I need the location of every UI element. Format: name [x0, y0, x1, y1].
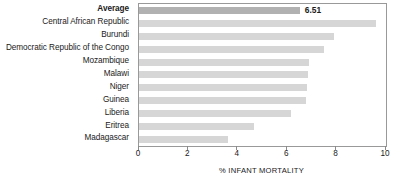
- category-label-eritrea: Eritrea: [0, 119, 134, 132]
- plot-area: 6.51: [138, 3, 387, 147]
- bar-eritrea: [139, 123, 254, 130]
- x-tick-label: 2: [185, 150, 190, 158]
- bar-value-label: 6.51: [305, 6, 321, 14]
- bar-row: [139, 133, 386, 146]
- bar-row: 6.51: [139, 4, 386, 17]
- bars-layer: 6.51: [139, 4, 386, 146]
- bar-row: [139, 69, 386, 82]
- bar-row: [139, 120, 386, 133]
- category-label-mozambique: Mozambique: [0, 55, 134, 68]
- bar-row: [139, 56, 386, 69]
- category-label-burundi: Burundi: [0, 29, 134, 42]
- bar-row: [139, 30, 386, 43]
- category-label-average: Average: [0, 3, 134, 16]
- bar-row: [139, 94, 386, 107]
- x-tick-label: 10: [380, 150, 389, 158]
- bar-democratic-republic-of-the-congo: [139, 46, 324, 53]
- bar-row: [139, 43, 386, 56]
- bar-guinea: [139, 97, 306, 104]
- category-label-central-african-republic: Central African Republic: [0, 16, 134, 29]
- infant-mortality-bar-chart: Average Central African Republic Burundi…: [0, 0, 399, 183]
- category-label-liberia: Liberia: [0, 106, 134, 119]
- bar-madagascar: [139, 136, 228, 143]
- x-tick-label: 6: [284, 150, 289, 158]
- category-label-niger: Niger: [0, 80, 134, 93]
- bar-liberia: [139, 110, 291, 117]
- bar-central-african-republic: [139, 20, 376, 27]
- x-tick-label: 0: [136, 150, 141, 158]
- bar-row: [139, 107, 386, 120]
- category-label-democratic-republic-of-the-congo: Democratic Republic of the Congo: [0, 42, 134, 55]
- x-tick-label: 4: [235, 150, 240, 158]
- category-axis: Average Central African Republic Burundi…: [0, 3, 134, 145]
- category-label-madagascar: Madagascar: [0, 132, 134, 145]
- bar-malawi: [139, 71, 308, 78]
- bar-average: [139, 7, 300, 14]
- value-axis: 0246810: [138, 146, 385, 162]
- category-label-guinea: Guinea: [0, 93, 134, 106]
- category-label-malawi: Malawi: [0, 68, 134, 81]
- bar-row: [139, 81, 386, 94]
- bar-niger: [139, 84, 307, 91]
- x-tick-label: 8: [333, 150, 338, 158]
- value-axis-title: % INFANT MORTALITY: [138, 167, 385, 175]
- bar-burundi: [139, 33, 334, 40]
- bar-row: [139, 17, 386, 30]
- bar-mozambique: [139, 59, 309, 66]
